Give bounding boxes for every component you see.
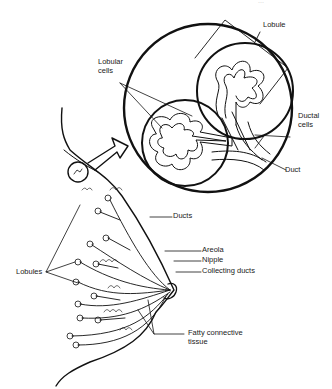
label-nipple: Nipple [202, 256, 223, 265]
magnify-arrow-icon [88, 138, 128, 170]
label-duct: Duct [285, 166, 300, 175]
label-collecting-ducts: Collecting ducts [202, 267, 255, 276]
lobule-bracket [195, 20, 288, 104]
areola-line [170, 251, 200, 281]
breast-anatomy-diagram [0, 0, 332, 389]
lobules-leader [46, 205, 80, 272]
label-lobule: Lobule [263, 21, 286, 30]
lower-acinus [150, 113, 233, 169]
label-lobules: Lobules [16, 268, 42, 277]
label-ducts: Ducts [173, 212, 192, 221]
label-fatty-connective-tissue: Fatty connective tissue [188, 329, 248, 346]
label-ductal-cells: Ductal cells [298, 112, 328, 129]
label-lobular-cells: Lobular cells [98, 58, 132, 75]
fatty-tissue [82, 188, 132, 331]
label-areola: Areola [202, 246, 224, 255]
breast-outline [56, 108, 174, 386]
ductal-tree [72, 200, 170, 345]
upper-acinus [216, 61, 264, 125]
areola-leader [172, 251, 200, 283]
upper-lobule-circle [197, 43, 293, 139]
cut-off-header-text: ... [258, 0, 264, 4]
lobular-cells-leader-1 [120, 83, 162, 128]
